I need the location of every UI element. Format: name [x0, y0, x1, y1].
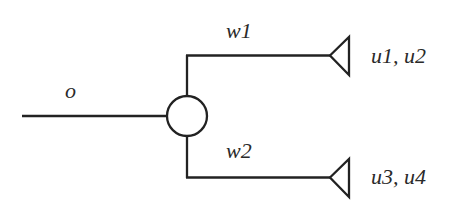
receiver-triangle-1 — [330, 37, 349, 75]
receiver-label-1: u1, u2 — [371, 43, 426, 68]
branch-label-w1: w1 — [226, 18, 252, 43]
receiver-triangle-2 — [330, 159, 349, 197]
branch-label-w2: w2 — [226, 138, 252, 163]
tree-network-diagram: o w1 u1, u2 w2 u3, u4 — [0, 0, 465, 206]
receiver-label-2: u3, u4 — [371, 164, 426, 189]
input-link-label: o — [65, 78, 76, 103]
splitter-node — [167, 96, 207, 136]
